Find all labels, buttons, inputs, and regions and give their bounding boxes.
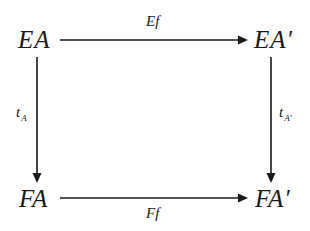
node-bottom-left: FA bbox=[19, 186, 48, 211]
arrow-top bbox=[60, 36, 248, 45]
commutative-diagram: EA EA′ FA FA′ Ef Ff tA tA′ bbox=[0, 0, 310, 231]
arrow-bottom bbox=[60, 194, 248, 203]
label-right-main: t bbox=[279, 104, 283, 120]
label-top-arrow: Ef bbox=[146, 14, 159, 29]
label-left-main: t bbox=[16, 104, 20, 120]
label-right-arrow: tA′ bbox=[279, 105, 292, 120]
arrow-right bbox=[267, 57, 276, 183]
label-right-subscript: A′ bbox=[284, 113, 291, 123]
label-left-arrow: tA bbox=[16, 105, 27, 120]
label-left-subscript: A bbox=[21, 113, 27, 123]
node-top-right: EA′ bbox=[254, 27, 293, 52]
arrow-left bbox=[33, 57, 42, 183]
node-bottom-right: FA′ bbox=[255, 186, 291, 211]
label-bottom-arrow: Ff bbox=[146, 206, 159, 221]
node-top-left: EA bbox=[18, 27, 51, 52]
